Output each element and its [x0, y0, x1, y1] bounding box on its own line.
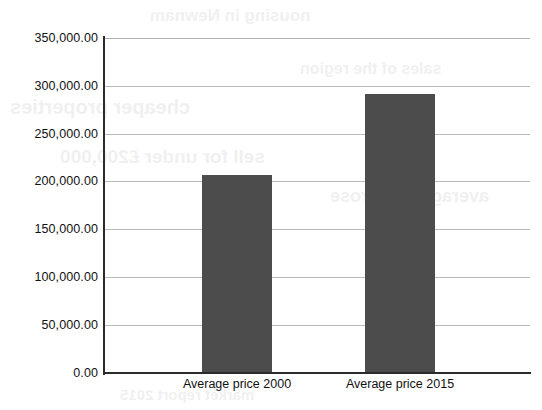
plot-area [104, 38, 530, 373]
x-axis-tick-label-2015: Average price 2015 [346, 378, 454, 391]
gridline-300000 [104, 86, 530, 87]
x-axis-tick-label-2000: Average price 2000 [183, 378, 291, 391]
y-axis-tick-label: 50,000.00 [0, 319, 98, 332]
y-axis-tick-label: 300,000.00 [0, 80, 98, 93]
gridline-100000 [104, 277, 530, 278]
gridline-200000 [104, 181, 530, 182]
y-axis-tick-label: 150,000.00 [0, 223, 98, 236]
y-axis-tick-label: 200,000.00 [0, 175, 98, 188]
bar-average-price-2000[interactable] [202, 175, 272, 373]
y-axis-line [103, 36, 105, 375]
bar-chart: 350,000.00 300,000.00 250,000.00 200,000… [0, 0, 542, 410]
y-axis-tick-label: 100,000.00 [0, 271, 98, 284]
y-axis-tick-label: 350,000.00 [0, 32, 98, 45]
x-axis-line [103, 372, 531, 374]
gridline-250000 [104, 134, 530, 135]
gridline-50000 [104, 325, 530, 326]
gridline-150000 [104, 229, 530, 230]
gridline-350000 [104, 38, 530, 39]
bar-average-price-2015[interactable] [365, 94, 435, 373]
y-axis-tick-label: 0.00 [0, 367, 98, 380]
y-axis-tick-label: 250,000.00 [0, 128, 98, 141]
